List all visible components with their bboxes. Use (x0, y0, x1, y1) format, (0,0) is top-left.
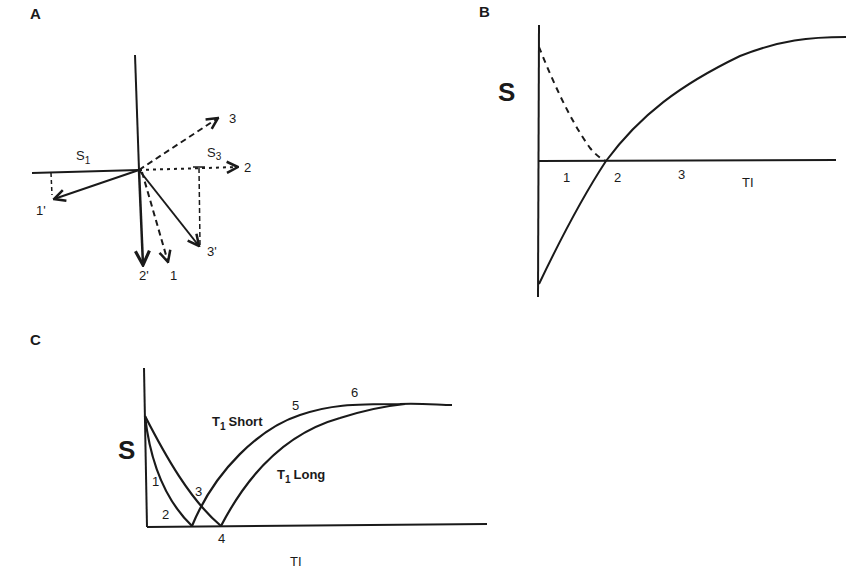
label-3: 3 (229, 111, 236, 126)
label-2prime: 2' (139, 268, 149, 283)
panel-c-ylabel: S (118, 435, 135, 465)
panel-b-letter: B (479, 3, 490, 20)
label-s3: S3 (207, 145, 222, 162)
panel-b-tick-3: 3 (678, 167, 685, 182)
panel-c-x-axis (147, 524, 487, 527)
panel-b-ylabel: S (498, 77, 515, 107)
projection-1prime (51, 173, 52, 195)
panel-b-y-axis (538, 25, 539, 297)
marker-4: 4 (218, 531, 225, 546)
label-2: 2 (244, 160, 251, 175)
panel-b-tick-2: 2 (614, 170, 621, 185)
vector-1 (142, 172, 168, 262)
label-s1: S1 (76, 148, 91, 166)
figure-canvas: A S1 S3 1' 2' 1 3' 2 3 B S (0, 0, 859, 579)
panel-b-tick-1: 1 (563, 170, 570, 185)
label-1prime: 1' (36, 203, 46, 218)
panel-b-xlabel: TI (742, 175, 754, 190)
panel-c-xlabel: TI (290, 554, 302, 569)
vector-2 (139, 167, 238, 170)
marker-6: 6 (351, 385, 358, 400)
panel-b-x-axis (539, 160, 836, 161)
label-1: 1 (170, 268, 177, 283)
marker-5: 5 (292, 398, 299, 413)
t1-long-label: T1Long (277, 467, 325, 485)
vertical-axis (135, 55, 139, 170)
label-3prime: 3' (207, 244, 217, 259)
marker-1: 1 (152, 474, 159, 489)
vector-2prime (139, 170, 143, 265)
vector-3prime (139, 170, 199, 246)
marker-3: 3 (195, 484, 202, 499)
panel-c-letter: C (30, 331, 41, 348)
panel-c-y-axis (144, 368, 147, 527)
s1-vector (32, 170, 139, 173)
panel-b: B S 1 2 3 TI (479, 3, 846, 297)
t1-short-label: T1Short (212, 414, 263, 432)
projection-3prime (199, 168, 200, 245)
vector-3 (139, 118, 218, 170)
panel-c: C S T1Short T1Long 1 2 3 4 5 6 TI (30, 331, 487, 569)
panel-b-dashed-curve (539, 47, 606, 161)
panel-a-letter: A (30, 5, 41, 22)
vector-1prime (54, 170, 139, 199)
panel-a: A S1 S3 1' 2' 1 3' 2 3 (30, 5, 251, 283)
marker-2: 2 (162, 507, 169, 522)
